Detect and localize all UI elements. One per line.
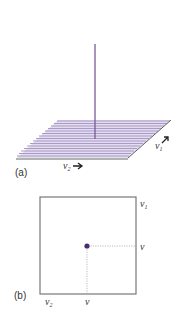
v2-axis-label: v2 [63, 160, 82, 172]
panel-b: v1 v v2 v (b) [14, 197, 147, 308]
arrow-up-right-icon [162, 137, 168, 143]
svg-text:v2: v2 [63, 160, 70, 172]
v2-axis-label: v2 [45, 296, 52, 308]
figure: v1 v2 (a) v1 v v2 v (b) [0, 0, 178, 315]
v1-axis-label: v1 [140, 198, 147, 210]
arrow-right-icon [73, 163, 82, 169]
svg-text:v1: v1 [155, 140, 162, 152]
point-label-right: v [140, 241, 145, 252]
panel-a: v1 v2 (a) [15, 44, 171, 178]
v1-axis-label: v1 [155, 137, 168, 152]
point-marker [84, 243, 89, 248]
panel-a-label: (a) [15, 167, 27, 178]
striped-plane [16, 120, 171, 159]
point-label-bottom: v [85, 296, 90, 307]
panel-b-label: (b) [14, 290, 26, 301]
